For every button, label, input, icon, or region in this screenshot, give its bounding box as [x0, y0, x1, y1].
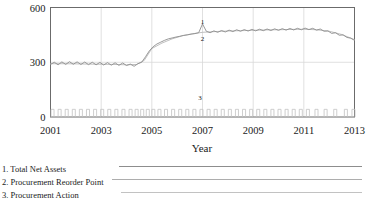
legend-label-3: 3. Procurement Action [2, 189, 79, 202]
procurement-action-pulse [158, 109, 161, 117]
procurement-action-pulse [122, 109, 125, 117]
legend-item-procurement-action: 3. Procurement Action [2, 186, 367, 199]
x-tick-label: 2009 [243, 125, 264, 136]
procurement-action-pulse [264, 109, 267, 117]
legend-line-sample-3 [121, 192, 362, 193]
x-axis-title: Year [192, 142, 213, 154]
procurement-action-pulse [271, 109, 274, 117]
procurement-action-pulse [79, 109, 82, 117]
series-annotation: 3 [198, 94, 202, 102]
procurement-action-pulse [179, 109, 182, 117]
x-tick-label: 2005 [141, 125, 162, 136]
legend-item-procurement-reorder-point: 2. Procurement Reorder Point [2, 173, 367, 186]
procurement-action-pulse [250, 109, 253, 117]
procurement-action-pulse [235, 109, 238, 117]
legend-line-sample-1 [119, 166, 362, 167]
procurement-action-pulse [152, 109, 155, 117]
procurement-action-pulse [129, 109, 132, 117]
procurement-action-pulse [285, 109, 288, 117]
y-tick-label: 300 [30, 57, 46, 68]
procurement-action-pulse [72, 109, 75, 117]
procurement-action-pulse [324, 109, 327, 117]
series-procurement-action [51, 109, 355, 117]
series-annotation: 1 [201, 18, 205, 26]
y-tick-label: 0 [40, 112, 45, 123]
procurement-action-pulse [292, 109, 295, 117]
procurement-action-pulse [58, 109, 61, 117]
procurement-action-pulse [94, 109, 97, 117]
procurement-action-pulse [172, 109, 175, 117]
procurement-action-pulse [299, 109, 302, 117]
chart-figure: 6003000 2001200320052007200920112013 123… [0, 0, 369, 212]
x-tick-label: 2013 [344, 125, 365, 136]
legend-item-total-net-assets: 1. Total Net Assets [2, 160, 367, 173]
y-axis-ticks: 6003000 [30, 3, 46, 124]
procurement-action-pulse [108, 109, 111, 117]
series-annotation: 2 [201, 35, 205, 43]
procurement-action-pulse [86, 109, 89, 117]
chart-legend: 1. Total Net Assets 2. Procurement Reord… [2, 160, 367, 199]
procurement-action-pulse [141, 109, 144, 117]
procurement-action-pulse [193, 109, 196, 117]
x-tick-label: 2007 [192, 125, 213, 136]
procurement-action-pulse [257, 109, 260, 117]
procurement-action-pulse [243, 109, 246, 117]
procurement-action-pulse [146, 109, 149, 117]
procurement-action-pulse [221, 109, 224, 117]
procurement-action-pulse [214, 109, 217, 117]
procurement-action-pulse [228, 109, 231, 117]
y-tick-label: 600 [30, 3, 46, 14]
procurement-action-pulse [278, 109, 281, 117]
procurement-action-pulse [115, 109, 118, 117]
x-axis-ticks: 2001200320052007200920112013 [40, 125, 365, 136]
procurement-action-pulse [344, 109, 347, 117]
procurement-action-pulse [334, 109, 337, 117]
procurement-action-pulse [135, 109, 138, 117]
procurement-action-pulse [165, 109, 168, 117]
legend-line-sample-2 [112, 179, 362, 180]
x-tick-label: 2001 [40, 125, 61, 136]
procurement-action-pulse [207, 109, 210, 117]
procurement-action-pulse [315, 109, 318, 117]
procurement-action-pulse [306, 109, 309, 117]
x-tick-label: 2011 [294, 125, 315, 136]
procurement-action-pulse [186, 109, 189, 117]
procurement-action-pulse [65, 109, 68, 117]
procurement-action-pulse [51, 109, 54, 117]
x-tick-label: 2003 [91, 125, 112, 136]
